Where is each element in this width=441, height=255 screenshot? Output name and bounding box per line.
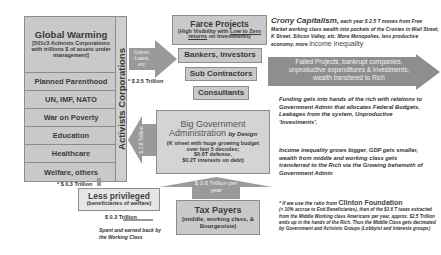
tax-payers-subtitle: (middle, working class, & Bourgeoisie) (177, 216, 259, 229)
working-class-note: Spent and earned back by the Working Cla… (99, 227, 161, 240)
stack-item-war-on-poverty: War on Poverty (25, 109, 117, 127)
global-warming-title: Global Warming (35, 30, 107, 40)
tax-payers-box: Tax Payers (middle, working class, & Bou… (176, 200, 260, 235)
right-arrow-icon (123, 219, 153, 221)
crony-capitalism-note: Crony Capitalism, each year $ 2.5 T move… (271, 16, 439, 48)
less-privileged-amount: * $ 0.3 Trillion (57, 181, 92, 187)
activists-corporations-vertical-label: Activists Corporations (115, 17, 126, 181)
stack-item-un-imf-nato: UN, IMF, NATO (25, 91, 117, 109)
farce-projects-subtitle: (High Visibility with Low to Zero return… (173, 29, 266, 41)
global-warming-box: Global Warming [501c3 Activists Corporat… (25, 17, 117, 73)
global-warming-subtitle: [501c3 Activists Corporations with trill… (25, 40, 117, 58)
less-privileged-box: Less privileged (beneficiaries of welfar… (78, 188, 160, 211)
stack-item-healthcare: Healthcare (25, 145, 117, 163)
sub-contractors-box: Sub Contractors (185, 67, 257, 81)
stack-item-education: Education (25, 127, 117, 145)
bankers-investors-box: Bankers, Investors (178, 48, 262, 63)
grants-label: Grants, Loans, etc. (131, 49, 153, 67)
activists-corporations-stack: Global Warming [501c3 Activists Corporat… (24, 16, 127, 182)
tax-inflow-label: $ 3.6 Trillion per year (188, 180, 244, 194)
failed-projects-label: Failed Projects, bankrupt companies, unp… (280, 58, 418, 81)
stack-item-planned-parenthood: Planned Parenthood (25, 73, 117, 91)
stack-item-welfare-others: Welfare, others (25, 163, 117, 181)
funding-note: Funding gets into hands of the rich with… (279, 96, 429, 126)
less-privileged-subtitle: (beneficiaries of welfare) (87, 201, 152, 207)
tax-payers-title: Tax Payers (195, 206, 242, 215)
activists-inflow-label: $ 2.8 Trillion (138, 127, 144, 154)
big-government-subtitle: Administration by Design (169, 129, 257, 138)
clinton-foundation-note: * If we use the ratio from Clinton Found… (279, 198, 439, 232)
consultants-box: Consultants (193, 86, 249, 100)
down-arrow-icon (97, 178, 101, 186)
inequality-note: Income inequality grows bigger, GDP gets… (279, 147, 429, 177)
big-government-box: Big Government Administration by Design … (156, 110, 270, 174)
farce-projects-box: Farce Projects (High Visibility with Low… (172, 15, 267, 45)
grants-amount: * $ 2.5 Trillion (128, 78, 163, 84)
